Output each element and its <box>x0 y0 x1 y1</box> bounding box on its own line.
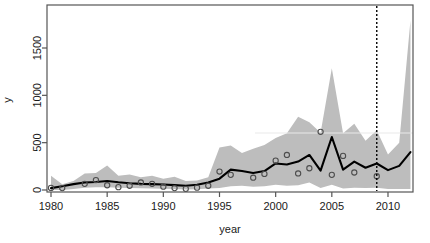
y-tick-label: 500 <box>31 133 43 151</box>
y-tick-label: 1000 <box>31 83 43 107</box>
y-tick-label: 1500 <box>31 36 43 60</box>
x-tick-label: 1985 <box>95 200 119 212</box>
chart-figure: 1980198519901995200020052010 05001000150… <box>0 0 430 243</box>
x-tick-label: 1980 <box>39 200 63 212</box>
y-axis-ticks: 050010001500 <box>31 36 47 193</box>
x-axis-ticks: 1980198519901995200020052010 <box>39 192 400 212</box>
x-tick-label: 2010 <box>376 200 400 212</box>
y-tick-label: 0 <box>31 187 43 193</box>
x-tick-label: 2005 <box>320 200 344 212</box>
y-axis-title: y <box>1 97 13 103</box>
x-tick-label: 2000 <box>263 200 287 212</box>
x-axis-title: year <box>219 223 241 235</box>
chart-canvas: 1980198519901995200020052010 05001000150… <box>0 0 430 243</box>
x-tick-label: 1995 <box>207 200 231 212</box>
x-tick-label: 1990 <box>151 200 175 212</box>
